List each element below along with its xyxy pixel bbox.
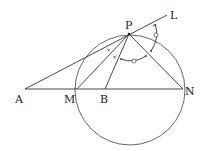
label-M: M: [64, 93, 75, 106]
circle: [75, 35, 185, 145]
arrow-head-icon: [153, 24, 156, 27]
label-P: P: [125, 19, 133, 32]
angle-mark-cross-icon: ×: [112, 53, 117, 60]
segment-PB: [105, 34, 129, 89]
ray-AL: [25, 15, 167, 89]
angle-mark-circle-icon: [132, 59, 136, 63]
angle-arc-LPN: [151, 24, 157, 51]
arc-end-dot: [120, 58, 122, 60]
segment-PN: [129, 34, 183, 89]
point-P-dot: [128, 33, 131, 36]
angle-mark-circle-icon: [154, 33, 158, 37]
angle-mark-cross-icon: ×: [106, 46, 111, 53]
label-B: B: [100, 93, 108, 106]
label-N: N: [185, 85, 195, 98]
arc-end-dot: [150, 50, 152, 52]
label-A: A: [14, 93, 24, 106]
geometry-diagram: × × A M B N P L: [0, 0, 206, 151]
label-L: L: [170, 9, 178, 22]
arc-end-dot: [145, 55, 147, 57]
